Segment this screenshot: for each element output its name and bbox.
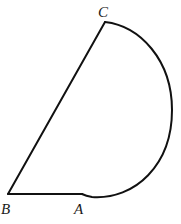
label-b: B <box>1 201 10 217</box>
arc-ca <box>82 22 172 197</box>
geometry-figure: C B A <box>0 0 181 224</box>
label-a: A <box>73 201 84 217</box>
figure-outline <box>8 22 172 197</box>
segment-bc <box>8 22 105 194</box>
label-c: C <box>98 4 109 20</box>
